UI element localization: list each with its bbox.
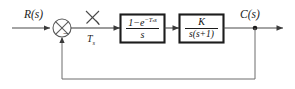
input-signal-label: R(s) <box>24 9 43 21</box>
zoh-input-arrowhead <box>114 25 121 30</box>
block-diagram: R(s) C(s) Ts − 1−e−Tₛs s K s(s+1) <box>0 0 295 89</box>
output-signal-label: C(s) <box>240 9 260 21</box>
zoh-numerator: 1−e−Tₛs <box>121 17 164 28</box>
plant-denominator: s(s+1) <box>178 30 225 40</box>
sampler-period-label: Ts <box>87 34 95 47</box>
sampler-period-subscript: s <box>93 39 96 46</box>
zoh-numerator-base: 1−e <box>128 17 144 28</box>
plant-numerator: K <box>180 17 223 27</box>
summing-junction-minus-sign: − <box>63 29 69 39</box>
output-arrowhead <box>277 25 284 30</box>
zoh-denominator: s <box>121 30 164 40</box>
zoh-numerator-exponent: −Tₛs <box>144 16 157 23</box>
input-arrowhead <box>44 25 50 30</box>
